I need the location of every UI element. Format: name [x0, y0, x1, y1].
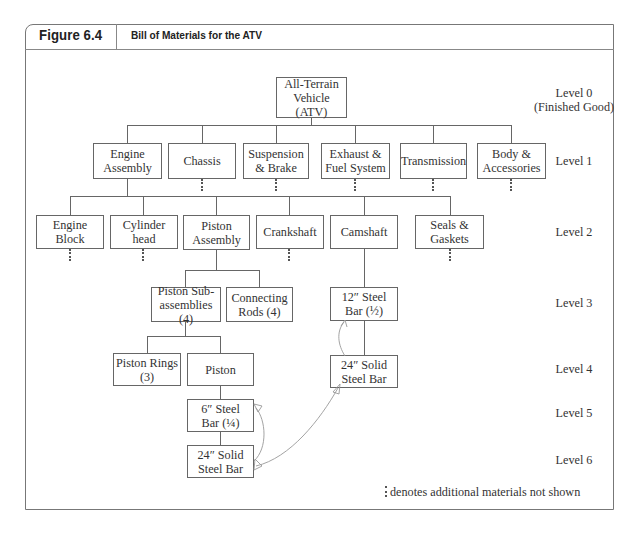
level-label-6: Level 6: [549, 453, 599, 467]
level-label-2: Level 2: [549, 225, 599, 239]
connector: [433, 125, 434, 143]
connector: [364, 196, 365, 215]
connector: [220, 336, 221, 353]
level-label-1: Level 1: [549, 154, 599, 168]
node-24in-solid-steel-bar-camshaft: 24″ Solid Steel Bar: [330, 355, 398, 388]
node-suspension-brake: Suspension & Brake: [243, 143, 309, 179]
node-piston-subassemblies: Piston Sub- assemblies (4): [151, 287, 221, 322]
node-piston: Piston: [187, 353, 254, 386]
connector: [289, 196, 290, 215]
more-materials-marker: [69, 249, 73, 261]
connector: [70, 196, 450, 197]
node-piston-rings: Piston Rings (3): [113, 353, 181, 386]
level-label-4: Level 4: [549, 362, 599, 376]
node-piston-assembly: Piston Assembly: [183, 215, 250, 250]
connector: [364, 320, 365, 355]
connector: [185, 270, 260, 271]
level-label-0: Level 0 (Finished Good): [524, 86, 624, 114]
node-engine-block: Engine Block: [36, 215, 104, 249]
more-materials-marker: [201, 179, 205, 191]
connector: [276, 125, 277, 143]
more-materials-marker: [354, 179, 358, 191]
node-camshaft: Camshaft: [330, 215, 398, 249]
more-materials-marker: [142, 249, 146, 261]
header-divider: [116, 24, 117, 49]
more-materials-marker: [510, 179, 514, 191]
connector: [147, 336, 148, 353]
node-transmission: Transmission: [400, 143, 467, 179]
more-materials-marker: [275, 179, 279, 191]
node-chassis: Chassis: [168, 143, 236, 179]
node-body-accessories: Body & Accessories: [477, 143, 546, 179]
connector: [216, 196, 217, 215]
connector: [202, 125, 203, 143]
connector: [355, 125, 356, 143]
node-seals-gaskets: Seals & Gaskets: [415, 215, 484, 249]
node-6in-steel-bar: 6″ Steel Bar (¼): [187, 399, 254, 432]
connector: [220, 385, 221, 399]
connector: [511, 125, 512, 143]
more-materials-marker: [432, 179, 436, 191]
node-24in-solid-steel-bar-piston: 24″ Solid Steel Bar: [187, 445, 254, 478]
figure-title: Bill of Materials for the ATV: [131, 29, 262, 41]
connector: [364, 248, 365, 288]
node-atv: All-Terrain Vehicle (ATV): [276, 77, 347, 118]
node-connecting-rods: Connecting Rods (4): [226, 287, 293, 322]
node-engine-assembly: Engine Assembly: [93, 143, 162, 179]
connector: [127, 178, 128, 197]
connector: [127, 125, 128, 143]
more-materials-marker: [288, 249, 292, 261]
more-materials-marker: [449, 249, 453, 261]
connector: [259, 270, 260, 287]
connector: [70, 196, 71, 215]
connector: [127, 125, 511, 126]
connector: [143, 196, 144, 215]
level-label-3: Level 3: [549, 296, 599, 310]
figure-header: Figure 6.4 Bill of Materials for the ATV: [25, 24, 614, 50]
figure-number: Figure 6.4: [39, 26, 102, 43]
level-label-5: Level 5: [549, 406, 599, 420]
legend-text: denotes additional materials not shown: [390, 485, 580, 499]
connector: [450, 196, 451, 215]
node-crankshaft: Crankshaft: [256, 215, 324, 249]
node-exhaust-fuel: Exhaust & Fuel System: [321, 143, 390, 179]
node-cylinder-head: Cylinder head: [110, 215, 178, 249]
connector: [216, 249, 217, 271]
dotted-line-icon: [385, 486, 387, 497]
node-12in-steel-bar: 12″ Steel Bar (½): [330, 287, 398, 321]
connector: [147, 336, 221, 337]
connector: [220, 431, 221, 445]
legend: denotes additional materials not shown: [385, 485, 580, 500]
